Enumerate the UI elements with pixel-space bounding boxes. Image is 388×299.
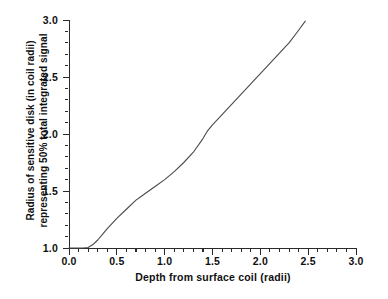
y-tick-minor — [65, 168, 68, 169]
x-tick-minor — [317, 249, 318, 252]
x-tick-label: 2.5 — [288, 255, 328, 267]
x-tick-minor — [155, 249, 156, 252]
x-tick-major — [116, 249, 117, 255]
y-tick-minor — [65, 31, 68, 32]
x-tick-minor — [88, 249, 89, 252]
y-tick-minor — [65, 145, 68, 146]
y-tick-minor — [65, 42, 68, 43]
x-tick-label: 0.5 — [97, 255, 137, 267]
x-tick-minor — [174, 249, 175, 252]
x-tick-major — [308, 249, 309, 255]
x-tick-minor — [250, 249, 251, 252]
x-tick-major — [260, 249, 261, 255]
x-tick-minor — [269, 249, 270, 252]
x-tick-minor — [135, 249, 136, 252]
x-tick-minor — [346, 249, 347, 252]
y-axis-line — [69, 20, 70, 249]
x-tick-minor — [231, 249, 232, 252]
x-tick-label: 2.0 — [240, 255, 280, 267]
y-tick-minor — [65, 122, 68, 123]
x-tick-major — [164, 249, 165, 255]
x-tick-major — [356, 249, 357, 255]
x-axis-title: Depth from surface coil (radii) — [69, 271, 357, 283]
y-tick-minor — [65, 202, 68, 203]
y-tick-minor — [65, 99, 68, 100]
y-tick-minor — [65, 88, 68, 89]
y-tick-major — [63, 191, 69, 192]
x-tick-minor — [193, 249, 194, 252]
x-tick-minor — [279, 249, 280, 252]
y-tick-major — [63, 77, 69, 78]
y-tick-major — [63, 248, 69, 249]
y-axis-title-line-1: Radius of sensitive disk (in coil radii) — [25, 6, 38, 256]
x-tick-minor — [336, 249, 337, 252]
x-tick-minor — [241, 249, 242, 252]
x-tick-minor — [298, 249, 299, 252]
x-tick-minor — [222, 249, 223, 252]
chart-figure: 0.00.51.01.52.02.53.01.01.52.02.53.0 Dep… — [0, 0, 388, 299]
x-tick-minor — [97, 249, 98, 252]
x-tick-minor — [183, 249, 184, 252]
y-axis-title: Radius of sensitive disk (in coil radii)… — [25, 6, 50, 256]
y-tick-minor — [65, 213, 68, 214]
x-tick-label: 0.0 — [49, 255, 89, 267]
x-tick-major — [212, 249, 213, 255]
x-tick-major — [69, 249, 70, 255]
x-tick-minor — [107, 249, 108, 252]
y-tick-major — [63, 20, 69, 21]
x-tick-label: 1.0 — [145, 255, 185, 267]
y-tick-minor — [65, 156, 68, 157]
y-tick-minor — [65, 65, 68, 66]
y-tick-minor — [65, 225, 68, 226]
y-tick-minor — [65, 111, 68, 112]
x-tick-minor — [289, 249, 290, 252]
y-tick-minor — [65, 236, 68, 237]
y-axis-title-line-2: representing 50% total integrated signal — [37, 6, 50, 256]
x-tick-minor — [126, 249, 127, 252]
x-tick-minor — [78, 249, 79, 252]
y-tick-minor — [65, 54, 68, 55]
x-tick-minor — [327, 249, 328, 252]
y-tick-major — [63, 134, 69, 135]
y-tick-minor — [65, 179, 68, 180]
x-tick-label: 1.5 — [193, 255, 233, 267]
x-tick-minor — [145, 249, 146, 252]
x-tick-label: 3.0 — [336, 255, 376, 267]
series-line-sensitive-disk-radius — [69, 21, 305, 248]
x-tick-minor — [202, 249, 203, 252]
